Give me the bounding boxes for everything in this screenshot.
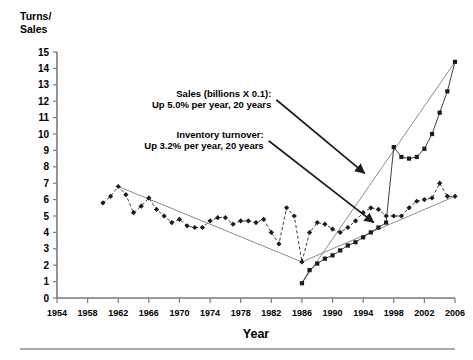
chart-container: Turns/Sales01234567891011121314151954195… (0, 0, 473, 360)
x-tick-label-1954: 1954 (47, 308, 67, 318)
y-tick-label-5: 5 (43, 211, 49, 222)
data-point (123, 192, 128, 197)
y-tick-label-15: 15 (38, 47, 50, 58)
data-point (299, 259, 304, 264)
y-tick-label-13: 13 (38, 79, 50, 90)
data-point (392, 145, 396, 149)
data-point (246, 218, 251, 223)
y-tick-label-4: 4 (43, 227, 49, 238)
data-point (369, 230, 373, 234)
data-point (200, 225, 205, 230)
data-point (445, 194, 450, 199)
data-point (376, 225, 380, 229)
data-point (330, 253, 334, 257)
data-point (300, 281, 304, 285)
data-point (292, 213, 297, 218)
data-point (430, 132, 434, 136)
data-point (253, 220, 258, 225)
data-point (116, 184, 121, 189)
y-tick-label-3: 3 (43, 243, 49, 254)
data-point (422, 197, 427, 202)
y-tick-label-14: 14 (38, 63, 50, 74)
y-axis-title-line2: Sales (20, 23, 48, 35)
data-point (238, 218, 243, 223)
data-point (315, 261, 319, 265)
turnover-annotation-arrow (269, 141, 374, 223)
data-point (323, 257, 327, 261)
data-point (368, 205, 373, 210)
data-point (453, 60, 457, 64)
data-point (192, 225, 197, 230)
data-point (438, 111, 442, 115)
y-tick-label-11: 11 (38, 112, 49, 123)
turnover-annotation-line2: Up 3.2% per year, 20 years (144, 140, 263, 151)
data-point (284, 205, 289, 210)
x-tick-label-1970: 1970 (169, 308, 189, 318)
x-tick-label-2002: 2002 (414, 308, 434, 318)
data-point (437, 181, 442, 186)
sales-annotation-arrow (276, 100, 364, 174)
data-point (169, 220, 174, 225)
data-point (384, 220, 388, 224)
data-point (207, 218, 212, 223)
series-line-0 (103, 183, 455, 262)
data-point (307, 268, 311, 272)
x-tick-label-1978: 1978 (231, 308, 251, 318)
data-point (399, 155, 403, 159)
sales-annotation-line2: Up 5.0% per year, 20 years (152, 99, 271, 110)
x-axis-title: Year (243, 327, 270, 341)
data-point (422, 147, 426, 151)
x-tick-label-1990: 1990 (323, 308, 343, 318)
sales-annotation-line1: Sales (billions X 0.1): (176, 88, 271, 99)
data-point (391, 213, 396, 218)
x-tick-label-1974: 1974 (200, 308, 220, 318)
data-point (376, 207, 381, 212)
data-point (230, 222, 235, 227)
data-point (261, 217, 266, 222)
data-point (345, 225, 350, 230)
turnover-trend-down (118, 186, 302, 261)
x-tick-label-1986: 1986 (292, 308, 312, 318)
data-point (445, 89, 449, 93)
data-point (338, 248, 342, 252)
y-tick-label-1: 1 (43, 276, 49, 287)
x-tick-label-2006: 2006 (445, 308, 465, 318)
y-tick-label-10: 10 (38, 129, 50, 140)
data-point (154, 207, 159, 212)
data-point (384, 213, 389, 218)
data-point (330, 227, 335, 232)
data-point (346, 243, 350, 247)
data-point (429, 195, 434, 200)
sales-trend-up (302, 62, 455, 283)
y-tick-label-2: 2 (43, 260, 49, 271)
data-point (162, 213, 167, 218)
data-point (223, 215, 228, 220)
y-axis-title-line1: Turns/ (20, 10, 51, 22)
x-tick-label-1958: 1958 (78, 308, 98, 318)
y-tick-label-9: 9 (43, 145, 49, 156)
y-tick-label-8: 8 (43, 161, 49, 172)
data-point (361, 235, 365, 239)
data-point (322, 222, 327, 227)
x-tick-label-1994: 1994 (353, 308, 373, 318)
x-tick-label-1966: 1966 (139, 308, 159, 318)
y-tick-label-7: 7 (43, 178, 49, 189)
data-point (415, 155, 419, 159)
data-point (452, 194, 457, 199)
turns-sales-line-chart: Turns/Sales01234567891011121314151954195… (0, 0, 473, 360)
y-tick-label-6: 6 (43, 194, 49, 205)
y-tick-label-12: 12 (38, 96, 50, 107)
data-point (269, 230, 274, 235)
data-point (353, 240, 357, 244)
y-tick-label-0: 0 (43, 293, 49, 304)
data-point (215, 215, 220, 220)
turnover-annotation-line1: Inventory turnover: (177, 129, 264, 140)
data-point (276, 241, 281, 246)
x-tick-label-1982: 1982 (261, 308, 281, 318)
x-tick-label-1998: 1998 (384, 308, 404, 318)
data-point (407, 157, 411, 161)
x-tick-label-1962: 1962 (108, 308, 128, 318)
